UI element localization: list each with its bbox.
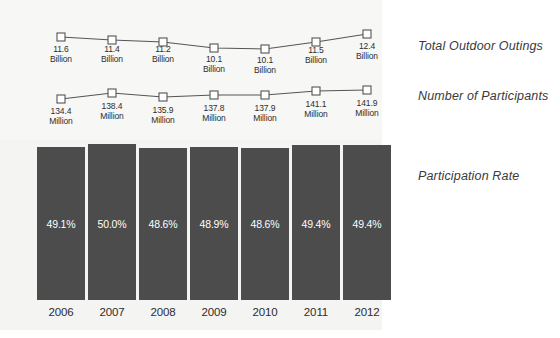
- outings-value-label: 11.6 Billion: [35, 44, 87, 64]
- bar-value-label: 49.4%: [290, 218, 342, 230]
- outings-marker: [363, 30, 371, 38]
- participants-value-label: 134.4 Million: [35, 106, 87, 126]
- legend-label-number-of-participants: Number of Participants: [418, 89, 548, 103]
- x-axis-label-2007: 2007: [86, 306, 138, 318]
- bar-value-label: 49.4%: [341, 218, 393, 230]
- x-axis-label-2011: 2011: [290, 306, 342, 318]
- x-axis-label-2006: 2006: [35, 306, 87, 318]
- x-axis-label-2008: 2008: [137, 306, 189, 318]
- participants-value-label: 141.9 Million: [341, 98, 393, 118]
- legend-label-participation-rate: Participation Rate: [418, 169, 519, 183]
- bar-value-label: 48.6%: [137, 218, 189, 230]
- participants-marker: [108, 89, 116, 97]
- outings-marker: [108, 36, 116, 44]
- participants-marker: [363, 86, 371, 94]
- bar-value-label: 49.1%: [35, 218, 87, 230]
- outings-value-label: 11.5 Billion: [290, 45, 342, 65]
- bar-value-label: 48.9%: [188, 218, 240, 230]
- outings-marker: [210, 44, 218, 52]
- participants-value-label: 137.9 Million: [239, 103, 291, 123]
- participants-value-label: 138.4 Million: [86, 101, 138, 121]
- participants-value-label: 141.1 Million: [290, 99, 342, 119]
- x-axis-label-2012: 2012: [341, 306, 393, 318]
- chart-figure: 11.6 Billion 11.4 Billion 11.2 Billion 1…: [0, 0, 560, 338]
- outings-value-label: 10.1 Billion: [239, 55, 291, 75]
- bar-value-label: 50.0%: [86, 218, 138, 230]
- outings-marker: [57, 33, 65, 41]
- x-axis-label-2010: 2010: [239, 306, 291, 318]
- participants-value-label: 135.9 Million: [137, 105, 189, 125]
- outings-value-label: 12.4 Billion: [341, 41, 393, 61]
- participants-marker: [159, 93, 167, 101]
- outings-value-label: 11.2 Billion: [137, 44, 189, 64]
- outings-value-label: 10.1 Billion: [188, 54, 240, 74]
- participants-marker: [57, 95, 65, 103]
- outings-marker: [261, 45, 269, 53]
- legend-label-total-outdoor-outings: Total Outdoor Outings: [418, 39, 543, 53]
- x-axis-label-2009: 2009: [188, 306, 240, 318]
- bar-value-label: 48.6%: [239, 218, 291, 230]
- participants-marker: [312, 87, 320, 95]
- outings-value-label: 11.4 Billion: [86, 44, 138, 64]
- participants-value-label: 137.8 Million: [188, 103, 240, 123]
- participants-marker: [261, 91, 269, 99]
- participants-marker: [210, 91, 218, 99]
